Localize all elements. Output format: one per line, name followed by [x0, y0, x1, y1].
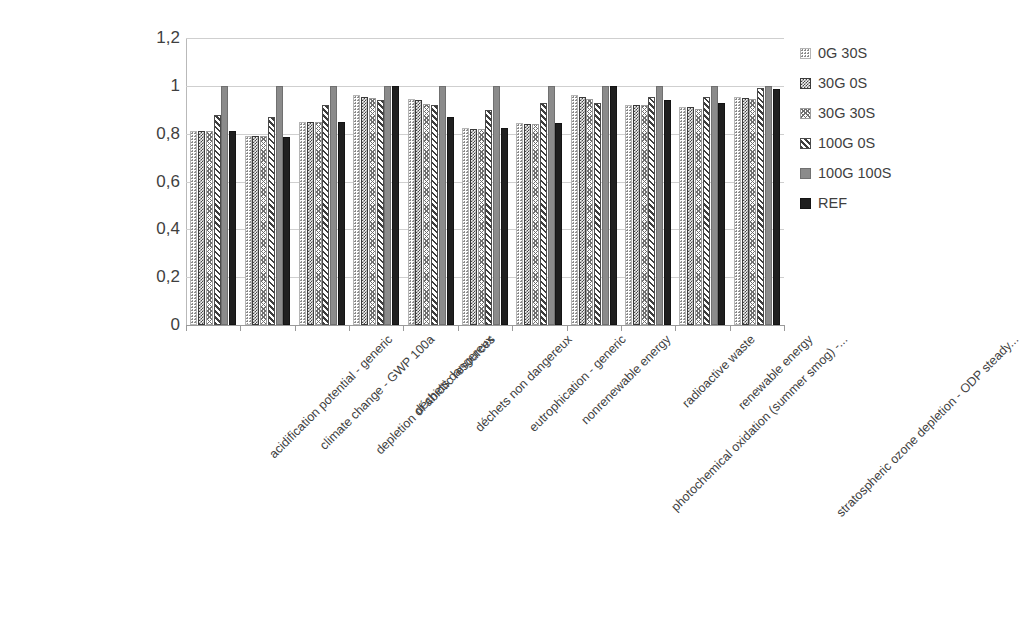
x-axis-labels: acidification potential - genericclimate…	[186, 325, 784, 625]
bar-group	[675, 38, 729, 325]
bar	[384, 86, 391, 325]
bar	[540, 103, 547, 325]
bar	[283, 137, 290, 325]
bar	[229, 131, 236, 325]
legend-item[interactable]: 100G 100S	[800, 158, 940, 188]
legend: 0G 30S30G 0S30G 30S100G 0S100G 100SREF	[800, 38, 940, 218]
bar	[679, 107, 686, 325]
bar-group	[730, 38, 784, 325]
legend-label: 100G 0S	[818, 135, 875, 151]
y-axis-tick-label: 0,6	[130, 173, 180, 190]
legend-label: REF	[818, 195, 847, 211]
x-axis-tick	[512, 325, 513, 331]
legend-item[interactable]: 100G 0S	[800, 128, 940, 158]
bar	[431, 105, 438, 325]
x-axis-tick-label: nonrenewable energy	[579, 333, 673, 427]
bar	[711, 86, 718, 325]
bar	[361, 97, 368, 325]
bar-group	[458, 38, 512, 325]
x-axis-tick	[403, 325, 404, 331]
bar	[268, 117, 275, 325]
bar	[664, 100, 671, 325]
bar	[214, 115, 221, 325]
y-axis-tick-label: 0	[130, 316, 180, 333]
bar-group	[512, 38, 566, 325]
legend-item[interactable]: 30G 30S	[800, 98, 940, 128]
x-axis-tick	[295, 325, 296, 331]
bar	[353, 95, 360, 325]
bar	[198, 131, 205, 325]
bar	[330, 86, 337, 325]
bar	[338, 122, 345, 325]
bar	[555, 123, 562, 325]
y-axis-tick-label: 0,4	[130, 220, 180, 237]
y-axis-tick-label: 0,2	[130, 268, 180, 285]
bar	[470, 129, 477, 325]
bar	[656, 86, 663, 325]
bar	[439, 86, 446, 325]
bar	[299, 122, 306, 325]
bar-groups	[186, 38, 784, 325]
x-axis-tick-label: photochemical oxidation (summer smog) -.…	[669, 333, 850, 514]
x-axis-tick	[621, 325, 622, 331]
bar	[462, 128, 469, 325]
bar	[687, 107, 694, 325]
x-axis-tick	[730, 325, 731, 331]
bar	[742, 98, 749, 325]
bar-group	[403, 38, 457, 325]
bar-group	[621, 38, 675, 325]
bar	[369, 98, 376, 325]
bar	[307, 122, 314, 325]
y-axis-tick-label: 0,8	[130, 125, 180, 142]
bar	[602, 86, 609, 325]
bar	[703, 97, 710, 325]
bar	[377, 100, 384, 325]
bar	[594, 103, 601, 325]
bar	[447, 117, 454, 325]
x-axis-tick	[349, 325, 350, 331]
y-axis-tick-label: 1,2	[130, 29, 180, 46]
bar	[392, 86, 399, 325]
bar	[252, 136, 259, 325]
bar	[322, 105, 329, 325]
bar	[485, 110, 492, 325]
bar	[765, 86, 772, 325]
bar	[757, 88, 764, 325]
x-axis-tick	[784, 325, 785, 331]
legend-label: 30G 0S	[818, 75, 867, 91]
bar-group	[567, 38, 621, 325]
x-axis-tick	[186, 325, 187, 331]
bar	[718, 103, 725, 325]
bar	[749, 99, 756, 325]
bar	[610, 86, 617, 325]
bar	[625, 105, 632, 325]
x-axis-tick	[567, 325, 568, 331]
x-axis-tick	[675, 325, 676, 331]
bar	[586, 99, 593, 325]
legend-label: 0G 30S	[818, 45, 867, 61]
bar-group	[295, 38, 349, 325]
bar	[641, 105, 648, 325]
bar	[260, 136, 267, 325]
legend-swatch-icon	[800, 108, 811, 119]
bar	[276, 86, 283, 325]
bar	[695, 109, 702, 325]
bar-group	[240, 38, 294, 325]
y-axis: 00,20,40,60,811,2	[130, 0, 180, 631]
bar	[501, 128, 508, 325]
legend-item[interactable]: 0G 30S	[800, 38, 940, 68]
bar	[315, 122, 322, 325]
bar	[773, 89, 780, 325]
bar-group	[186, 38, 240, 325]
bar	[648, 97, 655, 325]
bar	[493, 86, 500, 325]
legend-item[interactable]: 30G 0S	[800, 68, 940, 98]
bar	[408, 99, 415, 325]
bar	[633, 105, 640, 325]
bar	[524, 124, 531, 325]
legend-item[interactable]: REF	[800, 188, 940, 218]
legend-swatch-icon	[800, 138, 811, 149]
bar	[579, 97, 586, 325]
bar-group	[349, 38, 403, 325]
